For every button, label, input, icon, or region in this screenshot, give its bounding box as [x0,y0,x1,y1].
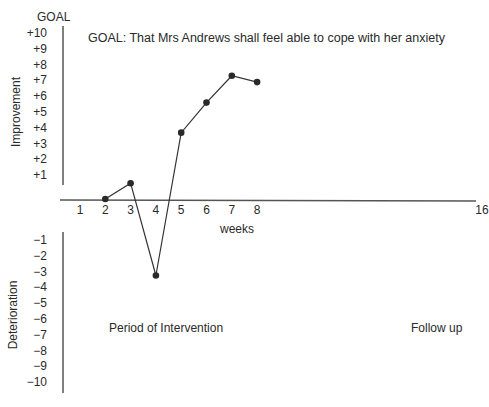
data-point [178,129,185,136]
data-point [229,72,236,79]
data-point [102,196,109,203]
data-point [254,79,261,86]
data-point [203,99,210,106]
data-point [153,272,160,279]
data-point [127,180,134,187]
series-line [105,76,257,276]
x-axis [60,200,476,201]
